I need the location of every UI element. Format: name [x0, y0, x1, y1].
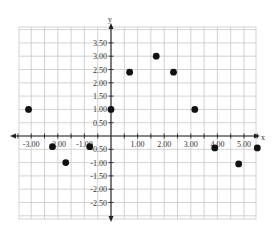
x-tick-label: 5.00 — [237, 140, 251, 149]
data-point — [191, 106, 198, 113]
data-point — [108, 106, 115, 113]
data-point — [126, 69, 133, 76]
y-tick-label: -1.50 — [90, 172, 107, 181]
y-tick-label: -2.50 — [90, 199, 107, 208]
data-point — [86, 143, 93, 150]
data-point — [235, 161, 242, 168]
x-axis-arrow-left — [10, 134, 16, 139]
grid — [19, 27, 256, 219]
y-tick-label: 0.50 — [93, 119, 107, 128]
y-tick-label: 1.50 — [93, 92, 107, 101]
y-tick-label: -1.00 — [90, 159, 107, 168]
data-point — [254, 145, 261, 152]
y-tick-label: -2.00 — [90, 185, 107, 194]
y-tick-label: 3.00 — [93, 52, 107, 61]
data-point — [62, 159, 69, 166]
tick-labels: -3.00-2.00-1.001.002.003.004.005.003.503… — [23, 39, 251, 208]
y-tick-label: 2.00 — [93, 79, 107, 88]
x-axis-label: x — [261, 133, 265, 142]
x-tick-label: -3.00 — [23, 140, 40, 149]
data-point — [170, 69, 177, 76]
x-tick-label: 1.00 — [131, 140, 145, 149]
y-axis-label: y — [108, 15, 112, 24]
y-tick-label: 1.00 — [93, 105, 107, 114]
data-point — [49, 143, 56, 150]
data-point — [25, 106, 32, 113]
y-tick-label: 2.50 — [93, 66, 107, 75]
scatter-plot: x y -3.00-2.00-1.001.002.003.004.005.003… — [0, 0, 273, 239]
data-point — [153, 53, 160, 60]
x-tick-label: 3.00 — [184, 140, 198, 149]
data-points — [25, 53, 261, 168]
x-tick-label: 2.00 — [157, 140, 171, 149]
y-tick-label: 3.50 — [93, 39, 107, 48]
data-point — [211, 145, 218, 152]
